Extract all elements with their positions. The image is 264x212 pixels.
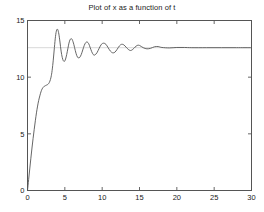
y-tick-label: 0 — [20, 186, 24, 195]
x-tick-label: 10 — [98, 193, 106, 202]
y-tick-label: 10 — [16, 73, 24, 82]
line-chart: 051015202530051015 — [0, 0, 264, 212]
x-tick-label: 25 — [210, 193, 218, 202]
x-tick-label: 0 — [25, 193, 29, 202]
axis-ticks — [28, 21, 252, 191]
x-tick-label: 5 — [63, 193, 67, 202]
data-series — [28, 29, 252, 190]
axis-tick-labels: 051015202530051015 — [16, 16, 256, 201]
y-tick-label: 5 — [20, 130, 24, 139]
figure-container: Plot of x as a function of t 05101520253… — [0, 0, 264, 212]
x-tick-label: 30 — [247, 193, 255, 202]
y-tick-label: 15 — [16, 16, 24, 25]
axes-box — [28, 21, 252, 191]
x-tick-label: 20 — [173, 193, 181, 202]
x-tick-label: 15 — [135, 193, 143, 202]
